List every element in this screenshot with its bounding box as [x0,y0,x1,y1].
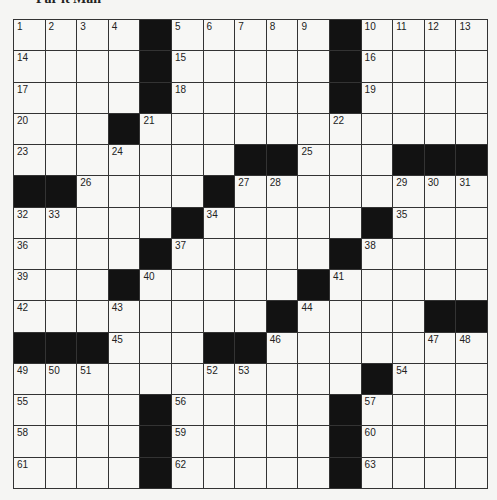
grid-cell[interactable]: 57 [362,395,393,425]
grid-cell[interactable] [204,395,235,425]
grid-cell[interactable] [298,426,329,456]
grid-cell[interactable] [46,395,77,425]
grid-cell[interactable]: 22 [330,114,361,144]
grid-cell[interactable]: 9 [298,20,329,50]
grid-cell[interactable] [298,51,329,81]
grid-cell[interactable] [77,426,108,456]
grid-cell[interactable]: 28 [267,176,298,206]
grid-cell[interactable]: 3 [77,20,108,50]
grid-cell[interactable] [204,114,235,144]
grid-cell[interactable] [77,208,108,238]
grid-cell[interactable] [77,458,108,488]
grid-cell[interactable] [393,239,424,269]
grid-cell[interactable] [393,270,424,300]
grid-cell[interactable] [425,83,456,113]
grid-cell[interactable] [46,239,77,269]
grid-cell[interactable] [425,270,456,300]
grid-cell[interactable] [204,426,235,456]
grid-cell[interactable]: 49 [14,364,45,394]
grid-cell[interactable]: 40 [140,270,171,300]
grid-cell[interactable] [46,114,77,144]
grid-cell[interactable] [298,458,329,488]
grid-cell[interactable] [140,176,171,206]
grid-cell[interactable] [456,114,487,144]
grid-cell[interactable] [235,114,266,144]
grid-cell[interactable]: 27 [235,176,266,206]
grid-cell[interactable] [109,176,140,206]
grid-cell[interactable] [298,208,329,238]
grid-cell[interactable]: 31 [456,176,487,206]
grid-cell[interactable] [172,145,203,175]
grid-cell[interactable]: 13 [456,20,487,50]
grid-cell[interactable] [46,426,77,456]
grid-cell[interactable]: 32 [14,208,45,238]
grid-cell[interactable] [77,114,108,144]
grid-cell[interactable]: 35 [393,208,424,238]
grid-cell[interactable]: 63 [362,458,393,488]
grid-cell[interactable] [140,145,171,175]
grid-cell[interactable]: 43 [109,301,140,331]
grid-cell[interactable] [425,458,456,488]
grid-cell[interactable]: 59 [172,426,203,456]
grid-cell[interactable] [330,364,361,394]
grid-cell[interactable] [298,364,329,394]
grid-cell[interactable] [46,145,77,175]
grid-cell[interactable]: 42 [14,301,45,331]
grid-cell[interactable] [362,145,393,175]
grid-cell[interactable]: 7 [235,20,266,50]
grid-cell[interactable]: 17 [14,83,45,113]
grid-cell[interactable]: 56 [172,395,203,425]
grid-cell[interactable]: 33 [46,208,77,238]
grid-cell[interactable]: 48 [456,333,487,363]
grid-cell[interactable] [235,270,266,300]
grid-cell[interactable] [235,51,266,81]
grid-cell[interactable] [140,364,171,394]
grid-cell[interactable] [77,51,108,81]
grid-cell[interactable] [204,239,235,269]
grid-cell[interactable] [298,395,329,425]
grid-cell[interactable]: 46 [267,333,298,363]
grid-cell[interactable]: 45 [109,333,140,363]
grid-cell[interactable] [109,83,140,113]
grid-cell[interactable] [235,239,266,269]
grid-cell[interactable]: 62 [172,458,203,488]
grid-cell[interactable] [140,208,171,238]
grid-cell[interactable] [298,333,329,363]
grid-cell[interactable] [204,51,235,81]
grid-cell[interactable] [456,239,487,269]
grid-cell[interactable] [140,301,171,331]
grid-cell[interactable] [330,333,361,363]
grid-cell[interactable]: 23 [14,145,45,175]
grid-cell[interactable] [267,114,298,144]
grid-cell[interactable]: 29 [393,176,424,206]
grid-cell[interactable]: 26 [77,176,108,206]
grid-cell[interactable]: 12 [425,20,456,50]
grid-cell[interactable] [235,426,266,456]
grid-cell[interactable]: 54 [393,364,424,394]
grid-cell[interactable] [393,114,424,144]
grid-cell[interactable] [109,426,140,456]
grid-cell[interactable] [393,83,424,113]
grid-cell[interactable] [425,364,456,394]
grid-cell[interactable] [267,458,298,488]
grid-cell[interactable]: 55 [14,395,45,425]
grid-cell[interactable] [425,395,456,425]
grid-cell[interactable]: 4 [109,20,140,50]
grid-cell[interactable]: 34 [204,208,235,238]
grid-cell[interactable]: 8 [267,20,298,50]
grid-cell[interactable] [204,145,235,175]
grid-cell[interactable] [456,426,487,456]
grid-cell[interactable] [425,239,456,269]
grid-cell[interactable] [330,301,361,331]
grid-cell[interactable] [46,83,77,113]
grid-cell[interactable] [362,114,393,144]
grid-cell[interactable]: 25 [298,145,329,175]
grid-cell[interactable] [362,333,393,363]
grid-cell[interactable]: 19 [362,83,393,113]
grid-cell[interactable] [393,51,424,81]
grid-cell[interactable] [330,145,361,175]
grid-cell[interactable] [267,239,298,269]
grid-cell[interactable] [425,51,456,81]
grid-cell[interactable] [172,333,203,363]
grid-cell[interactable]: 53 [235,364,266,394]
